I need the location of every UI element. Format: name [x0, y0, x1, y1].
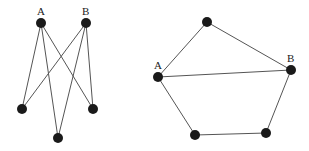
node-A — [153, 72, 163, 82]
node-label-B: B — [287, 52, 294, 64]
pentagon-graph: AB — [153, 17, 296, 140]
node-label-A: A — [154, 59, 162, 71]
edge-B-M — [58, 23, 86, 138]
edge-A-R — [41, 23, 93, 109]
node-M — [53, 133, 63, 143]
edge-BR-B — [266, 70, 291, 133]
node-B — [286, 65, 296, 75]
node-R — [88, 104, 98, 114]
node-T — [202, 17, 212, 27]
edge-T-B — [207, 22, 291, 70]
edge-T-A — [158, 22, 207, 77]
graph-diagram: AB AB — [0, 0, 309, 151]
edge-B-R — [86, 23, 93, 109]
node-BL — [190, 130, 200, 140]
node-L — [17, 104, 27, 114]
node-A — [36, 18, 46, 28]
node-B — [81, 18, 91, 28]
node-label-B: B — [82, 5, 89, 17]
bipartite-graph: AB — [17, 5, 98, 143]
edge-A-BL — [158, 77, 195, 135]
node-label-A: A — [37, 5, 45, 17]
edge-BL-BR — [195, 133, 266, 135]
node-BR — [261, 128, 271, 138]
edge-A-B — [158, 70, 291, 77]
